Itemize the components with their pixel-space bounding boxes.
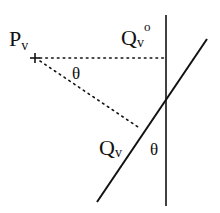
label-q0: Qvo — [121, 19, 150, 50]
label-p: Pv — [9, 26, 28, 53]
label-angle-lower: θ — [150, 140, 158, 159]
dotted-diagonal-line — [40, 61, 138, 127]
label-angle-upper: θ — [72, 64, 80, 83]
diagram-canvas: Pv Qvo θ Qv θ — [0, 0, 220, 213]
plus-marker-icon — [30, 53, 40, 63]
diagonal-line — [97, 39, 207, 202]
label-q: Qv — [99, 135, 122, 160]
